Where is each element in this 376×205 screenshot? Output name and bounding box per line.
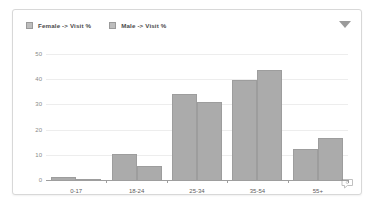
bar-25-34-series1[interactable] (197, 102, 222, 180)
y-tick-label: 40 (26, 76, 42, 82)
bar-18-24-series1[interactable] (137, 166, 162, 180)
legend-swatch-icon (26, 22, 33, 29)
x-tick-label-25-34: 25-34 (189, 188, 204, 194)
bar-35-54-series0[interactable] (232, 80, 257, 180)
x-axis-tick (227, 180, 228, 183)
legend-item-1[interactable]: Male -> Visit % (109, 22, 166, 29)
bar-18-24-series0[interactable] (112, 154, 137, 180)
bar-55+-series0[interactable] (293, 149, 318, 181)
bar-group-35-54 (227, 32, 287, 180)
x-axis-tick (288, 180, 289, 183)
legend-item-0[interactable]: Female -> Visit % (26, 22, 91, 29)
x-axis-tick (167, 180, 168, 183)
bar-series-container (46, 37, 348, 185)
x-axis-tick (106, 180, 107, 183)
x-tick-label-0-17: 0-17 (70, 188, 82, 194)
y-tick-label: 10 (26, 152, 42, 158)
y-tick-label: 50 (26, 51, 42, 57)
legend-swatch-icon (109, 22, 116, 29)
y-tick-label: 20 (26, 127, 42, 133)
x-tick-label-55+: 55+ (313, 188, 323, 194)
x-tick-label-35-54: 35-54 (250, 188, 265, 194)
y-tick-label: 30 (26, 101, 42, 107)
bar-55+-series1[interactable] (318, 138, 343, 180)
y-tick-label: 0 (26, 177, 42, 183)
comment-bubble-icon[interactable] (341, 178, 354, 189)
chevron-down-icon[interactable] (339, 21, 351, 28)
legend-label: Female -> Visit % (38, 22, 91, 29)
bar-0-17-series1[interactable] (76, 179, 101, 180)
chart-legend: Female -> Visit %Male -> Visit % (26, 18, 166, 32)
bar-group-55+ (288, 32, 348, 180)
x-tick-label-18-24: 18-24 (129, 188, 144, 194)
bar-group-25-34 (167, 32, 227, 180)
bar-25-34-series0[interactable] (172, 94, 197, 180)
chart-plot-area: 01020304050 0-1718-2425-3435-5455+ (26, 37, 350, 185)
bar-group-18-24 (106, 32, 166, 180)
legend-label: Male -> Visit % (121, 22, 166, 29)
chart-widget: Female -> Visit %Male -> Visit % 0102030… (12, 9, 362, 195)
bar-35-54-series1[interactable] (257, 70, 282, 180)
bar-0-17-series0[interactable] (51, 177, 76, 180)
bar-group-0-17 (46, 32, 106, 180)
